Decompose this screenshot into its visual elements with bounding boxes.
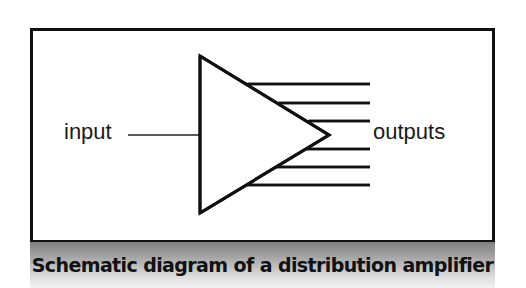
input-label: input <box>64 121 112 143</box>
caption-band: Schematic diagram of a distribution ampl… <box>30 242 495 288</box>
outputs-label: outputs <box>373 121 445 143</box>
amplifier-triangle-icon <box>200 56 329 213</box>
figure-caption: Schematic diagram of a distribution ampl… <box>30 254 495 276</box>
